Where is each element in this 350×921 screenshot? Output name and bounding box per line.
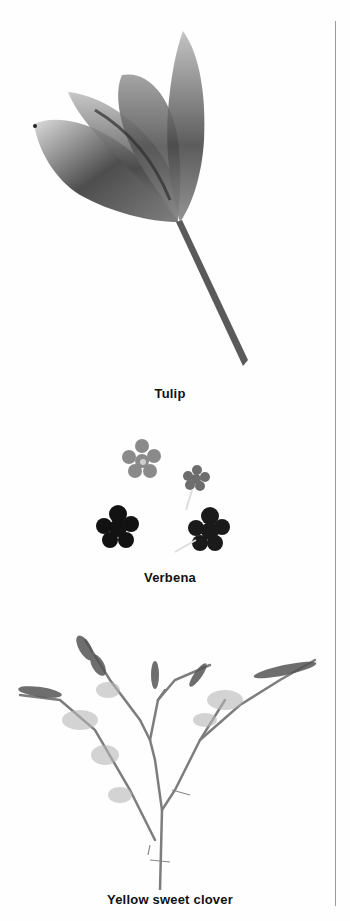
tulip-caption: Tulip [130,386,210,401]
sweet-clover-illustration-icon [10,620,320,890]
vertical-divider-rule [335,21,336,906]
yellow-sweet-clover-specimen [10,620,320,890]
botanical-plate-page: Tulip [0,0,350,921]
verbena-illustration-icon [90,436,240,556]
tulip-illustration-icon [25,28,265,373]
tulip-specimen [25,28,265,373]
verbena-specimen [90,436,240,556]
verbena-caption: Verbena [120,570,220,585]
yellow-sweet-clover-caption: Yellow sweet clover [90,892,250,907]
